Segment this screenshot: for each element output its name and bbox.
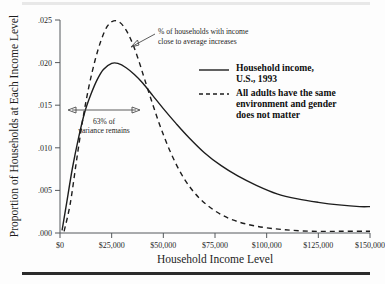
variance-annotation-line2: variance remains xyxy=(78,126,130,135)
x-axis-ticks xyxy=(60,233,370,238)
y-tick-label: .005 xyxy=(38,186,52,195)
legend-entry-2-line2: environment and gender xyxy=(236,98,337,109)
x-tick-label: $75,000 xyxy=(202,241,228,250)
variance-annotation: 63% of variance remains xyxy=(68,107,140,135)
x-axis-tick-labels: $0$25,000$50,000$75,000$100,000$125,000$… xyxy=(56,241,385,250)
income-distribution-chart: .000.005.010.015.020.025 $0$25,000$50,00… xyxy=(0,0,385,284)
x-tick-label: $100,000 xyxy=(252,241,282,250)
y-tick-label: .010 xyxy=(38,144,52,153)
y-tick-label: .015 xyxy=(38,101,52,110)
x-tick-label: $0 xyxy=(56,241,64,250)
variance-annotation-line1: 63% of xyxy=(93,117,116,126)
legend-entry-1-line2: U.S., 1993 xyxy=(236,73,277,84)
x-tick-label: $150,000 xyxy=(355,241,385,250)
peak-annotation: % of households with income close to ave… xyxy=(131,27,249,47)
y-tick-label: .000 xyxy=(38,229,52,238)
x-axis-title: Household Income Level xyxy=(157,253,273,265)
legend-entry-2-line1: All adults have the same xyxy=(236,87,336,98)
legend-entry-2-line3: does not matter xyxy=(236,109,301,120)
figure-page: .000.005.010.015.020.025 $0$25,000$50,00… xyxy=(0,0,385,284)
x-tick-label: $50,000 xyxy=(150,241,176,250)
y-axis-tick-labels: .000.005.010.015.020.025 xyxy=(38,16,52,238)
legend-entry-1-line1: Household income, xyxy=(236,62,314,73)
peak-annotation-line1: % of households with income xyxy=(158,27,249,36)
peak-annotation-leader-line xyxy=(131,34,155,47)
y-axis-title: Proportion of Households at Each Income … xyxy=(8,15,21,237)
y-axis-ticks xyxy=(55,20,60,233)
chart-legend: Household income, U.S., 1993 All adults … xyxy=(199,62,337,120)
x-tick-label: $25,000 xyxy=(99,241,125,250)
peak-annotation-line2: close to average increases xyxy=(158,37,237,46)
x-tick-label: $125,000 xyxy=(303,241,333,250)
y-tick-label: .025 xyxy=(38,16,52,25)
y-tick-label: .020 xyxy=(38,59,52,68)
